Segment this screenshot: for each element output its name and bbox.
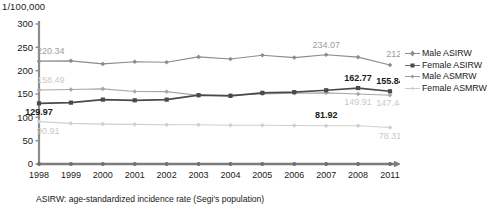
data-point [356, 55, 361, 60]
data-point [324, 52, 329, 57]
data-value-label: 129.97 [25, 107, 53, 117]
data-value-label: 158.49 [37, 75, 65, 85]
data-point [388, 89, 392, 93]
y-axis-unit-label: 1/100,000 [2, 1, 45, 12]
legend-item-female-asmrw: Female ASMRW [404, 83, 488, 95]
data-value-label: 162.77 [344, 73, 372, 83]
data-point [101, 87, 106, 92]
x-axis-tick-label: 2001 [125, 170, 145, 179]
data-point [37, 88, 42, 93]
data-point [69, 101, 73, 105]
x-axis-tick [260, 162, 264, 166]
x-axis-tick [101, 162, 105, 166]
figure-caption: ASIRW: age-standardized incidence rate (… [36, 194, 264, 204]
data-point [196, 93, 200, 97]
data-point [260, 53, 265, 58]
legend-marker-light-line-icon [404, 83, 421, 94]
data-point [133, 98, 137, 102]
x-axis-tick [356, 162, 360, 166]
x-axis-tick-label: 2004 [220, 170, 240, 179]
data-value-label: 220.34 [37, 46, 65, 56]
data-point [132, 122, 137, 127]
y-axis-tick-label: 250 [17, 42, 33, 53]
data-value-label: 149.91 [344, 97, 372, 107]
data-point [260, 123, 265, 128]
x-axis-tick [197, 162, 201, 166]
data-point [196, 55, 201, 60]
data-point [37, 101, 41, 105]
x-axis-tick-label: 2005 [252, 170, 272, 179]
x-axis-tick [165, 162, 169, 166]
data-point [324, 88, 328, 92]
line-chart-svg: 0501001502002503001998199920002001200220… [0, 14, 400, 179]
data-point [388, 125, 393, 130]
chart-legend: Male ASIRW Female ASIRW Male ASMRW Femal… [404, 48, 488, 94]
x-axis-tick-label: 2011 [380, 170, 399, 179]
legend-item-female-asirw: Female ASIRW [404, 60, 488, 72]
data-point [132, 89, 137, 94]
data-point [388, 63, 393, 68]
data-value-label: 90.91 [37, 126, 60, 136]
x-axis-tick [37, 162, 41, 166]
data-value-label: 81.92 [315, 110, 338, 120]
series-line [39, 55, 390, 65]
data-point [228, 94, 232, 98]
data-point [356, 92, 361, 97]
x-axis-tick [229, 162, 233, 166]
data-point [101, 62, 106, 67]
y-axis-tick-label: 0 [28, 158, 33, 169]
x-axis-tick-label: 1999 [61, 170, 81, 179]
legend-item-male-asirw: Male ASIRW [404, 48, 488, 60]
data-value-label: 212.18 [386, 49, 400, 59]
data-point [388, 93, 393, 98]
data-point [101, 98, 105, 102]
plot-area: 0501001502002503001998199920002001200220… [0, 14, 400, 179]
data-point [164, 60, 169, 65]
y-axis-tick-label: 50 [22, 135, 33, 146]
data-value-label: 155.84 [376, 76, 400, 86]
x-axis-tick-label: 2000 [93, 170, 113, 179]
legend-label-male-asmrw: Male ASMRW [421, 71, 477, 83]
data-point [69, 59, 74, 64]
x-axis-tick-label: 2007 [316, 170, 336, 179]
x-axis-tick-label: 1998 [29, 170, 49, 179]
x-axis-tick [292, 162, 296, 166]
data-point [164, 123, 169, 128]
legend-marker-square-icon [404, 60, 421, 71]
data-point [292, 123, 297, 128]
legend-marker-diamond-icon [404, 48, 421, 59]
x-axis-tick [388, 162, 392, 166]
data-point [228, 57, 233, 62]
data-point [69, 87, 74, 92]
data-point [132, 60, 137, 65]
data-point [196, 123, 201, 128]
series-line [39, 122, 390, 128]
y-axis-tick-label: 150 [17, 88, 33, 99]
data-point [101, 122, 106, 127]
data-point [260, 91, 264, 95]
data-value-label: 147.44 [376, 98, 400, 108]
data-point [292, 55, 297, 60]
legend-label-female-asmrw: Female ASMRW [421, 83, 487, 95]
x-axis-tick [69, 162, 73, 166]
x-axis-tick [324, 162, 328, 166]
y-axis-tick-label: 200 [17, 65, 33, 76]
data-point [69, 121, 74, 126]
x-axis-tick-label: 2003 [189, 170, 209, 179]
data-point [37, 59, 42, 64]
data-point [228, 123, 233, 128]
data-point [324, 123, 329, 128]
data-point [356, 123, 361, 128]
chart-figure: 1/100,000 050100150200250300199819992000… [0, 0, 488, 204]
data-value-label: 234.07 [312, 40, 340, 50]
data-point [164, 89, 169, 94]
legend-label-male-asirw: Male ASIRW [421, 48, 472, 60]
legend-item-male-asmrw: Male ASMRW [404, 71, 488, 83]
data-point [37, 119, 42, 124]
data-value-label: 78.31 [379, 131, 400, 141]
data-point [356, 86, 360, 90]
x-axis-tick-label: 2006 [284, 170, 304, 179]
y-axis-tick-label: 300 [17, 18, 33, 29]
legend-marker-line-icon [404, 71, 421, 82]
x-axis-tick-label: 2002 [157, 170, 177, 179]
